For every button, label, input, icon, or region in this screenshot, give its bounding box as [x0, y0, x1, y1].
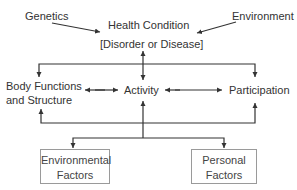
node-participation: Participation: [229, 84, 290, 97]
node-genetics: Genetics: [25, 10, 68, 23]
node-environment: Environment: [232, 10, 294, 23]
connector-bottom-right: [143, 103, 255, 123]
personal-factors-line1: Personal: [192, 153, 256, 168]
arrow-environment-to-health: [197, 22, 236, 33]
connector-bottom-left: [41, 109, 143, 123]
node-personal-factors: Personal Factors: [191, 149, 257, 184]
connector-to-personal: [143, 138, 224, 148]
connector-top-right: [143, 64, 255, 77]
personal-factors-line2: Factors: [192, 168, 256, 183]
arrow-genetics-to-health: [52, 23, 100, 32]
node-health-condition: Health Condition: [108, 19, 189, 32]
environmental-factors-line1: Environmental: [41, 153, 109, 168]
connector-top-left: [39, 64, 143, 77]
node-environmental-factors: Environmental Factors: [40, 149, 110, 184]
environmental-factors-line2: Factors: [41, 168, 109, 183]
node-body-functions-line2: and Structure: [6, 94, 72, 107]
connector-to-environmental: [73, 138, 143, 148]
node-body-functions: Body Functions: [6, 80, 82, 93]
node-health-condition-subtitle: [Disorder or Disease]: [100, 38, 203, 51]
node-activity: Activity: [124, 84, 159, 97]
